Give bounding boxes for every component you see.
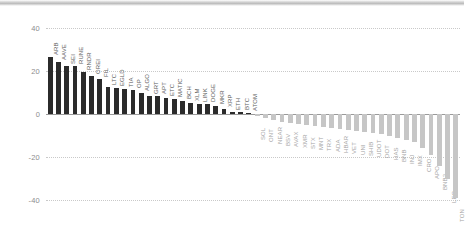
bar-label-udot: UDOT	[376, 140, 382, 157]
y-tick-label--40: -40	[4, 196, 40, 205]
bar-etc[interactable]	[164, 98, 169, 114]
bar-label-dot: DOT	[384, 145, 390, 158]
bar-label-link: LINK	[202, 88, 208, 102]
bar-rndr[interactable]	[81, 72, 86, 114]
bar-label-apo: APO	[434, 166, 440, 179]
bar-uni[interactable]	[354, 114, 359, 131]
bar-label-matic: MATIC	[177, 78, 183, 97]
bar-btc[interactable]	[238, 112, 243, 114]
bar-sol[interactable]	[255, 114, 260, 116]
bar-label-egld: EGLD	[119, 69, 125, 86]
bar-has[interactable]	[387, 114, 392, 136]
bar-label-bnb: BNB	[401, 149, 407, 162]
y-tick-label-20: 20	[4, 67, 40, 76]
bar-arb[interactable]	[48, 57, 53, 114]
bar-label-grt: GRT	[153, 81, 159, 94]
bar-cro[interactable]	[420, 114, 425, 148]
bar-label-rndr: RNDR	[86, 52, 92, 70]
bar-label-mnt: MNT	[318, 137, 324, 150]
bar-apt[interactable]	[155, 96, 160, 114]
bar-udot[interactable]	[371, 114, 376, 133]
bar-label-eth: ETH	[235, 98, 241, 110]
bar-rune[interactable]	[73, 66, 78, 114]
bar-label-cro: CRO	[426, 159, 432, 173]
bar-vet[interactable]	[346, 114, 351, 130]
bar-label-ada: ADA	[335, 139, 341, 152]
bar-doge[interactable]	[205, 104, 210, 114]
bar-fil[interactable]	[97, 79, 102, 114]
bar-label-ton: TON	[459, 209, 465, 222]
bar-ada[interactable]	[329, 114, 334, 128]
bar-label-vet: VET	[351, 142, 357, 154]
bar-xlm[interactable]	[188, 103, 193, 114]
bar-label-rune: RUNE	[78, 47, 84, 64]
y-tick-label-0: 0	[4, 110, 40, 119]
bar-mkr[interactable]	[213, 106, 218, 114]
bar-label-ont: ONT	[268, 129, 274, 142]
bar-label-ltc: LTC	[111, 74, 117, 85]
bar-atom[interactable]	[246, 113, 251, 114]
bar-bch[interactable]	[180, 101, 185, 114]
bar-label-inj: INJ	[409, 154, 415, 163]
bar-egld[interactable]	[114, 88, 119, 114]
bar-label-avax: AVAX	[293, 131, 299, 147]
bar-label-xlm: XLM	[194, 89, 200, 102]
bar-bsv[interactable]	[280, 114, 285, 122]
bar-label-uni: UNI	[360, 145, 366, 156]
bar-label-tia: TIA	[128, 78, 134, 88]
bar-imx[interactable]	[412, 114, 417, 142]
bar-label-stx: STX	[310, 137, 316, 149]
bar-label-xmr: XMR	[302, 134, 308, 148]
bar-mnt[interactable]	[313, 114, 318, 126]
bar-orei[interactable]	[89, 76, 94, 114]
bar-label-bsv: BSV	[285, 133, 291, 145]
bar-label-xrp: XRP	[227, 94, 233, 107]
bar-label-algo: ALGO	[144, 73, 150, 90]
bar-dot[interactable]	[379, 114, 384, 134]
bar-xrp[interactable]	[222, 109, 227, 114]
bar-label-hbar: HBAR	[343, 136, 349, 153]
bar-hbar[interactable]	[338, 114, 343, 129]
bar-label-trx: TRX	[326, 139, 332, 151]
bar-tia[interactable]	[122, 89, 127, 114]
bar-apo[interactable]	[429, 114, 434, 155]
bar-label-near: NEAR	[277, 127, 283, 144]
bar-algo[interactable]	[139, 93, 144, 115]
bar-matic[interactable]	[172, 99, 177, 114]
bar-near[interactable]	[271, 114, 276, 120]
bar-bnb2[interactable]	[437, 114, 442, 166]
bar-label-atom: ATOM	[252, 94, 258, 111]
bar-sei[interactable]	[64, 66, 69, 114]
bar-bnb[interactable]	[395, 114, 400, 138]
bar-ltc[interactable]	[106, 87, 111, 114]
bar-ont[interactable]	[263, 114, 268, 118]
bar-avax[interactable]	[288, 114, 293, 123]
bar-op[interactable]	[131, 90, 136, 114]
bar-aave[interactable]	[56, 62, 61, 114]
bar-link[interactable]	[197, 104, 202, 114]
bar-inj[interactable]	[404, 114, 409, 140]
bar-trx[interactable]	[321, 114, 326, 127]
y-tick-label--20: -20	[4, 153, 40, 162]
bar-ton[interactable]	[453, 114, 458, 198]
bar-series: ARBAAVESEIRUNERNDROREIFILLTCEGLDTIAOPALG…	[46, 6, 460, 235]
bar-label-op: OP	[136, 79, 142, 88]
bar-label-arb: ARB	[53, 42, 59, 55]
bar-shib[interactable]	[362, 114, 367, 132]
bar-label-etc: ETC	[169, 84, 175, 96]
plot-area: ARBAAVESEIRUNERNDROREIFILLTCEGLDTIAOPALG…	[46, 6, 460, 235]
bar-label-mkr: MKR	[219, 91, 225, 105]
bar-label-imx: IMX	[417, 155, 423, 166]
bar-label-fil: FIL	[103, 68, 109, 77]
bar-label-bch: BCH	[186, 86, 192, 99]
bar-label-apt: APT	[161, 82, 167, 94]
bar-leo[interactable]	[445, 114, 450, 179]
bar-label-doge: DOGE	[210, 84, 216, 102]
y-tick-label-40: 40	[4, 24, 40, 33]
bar-label-aave: AAVE	[61, 44, 67, 60]
bar-label-sol: SOL	[260, 128, 266, 140]
bar-eth[interactable]	[230, 112, 235, 114]
bar-xmr[interactable]	[296, 114, 301, 124]
bar-grt[interactable]	[147, 96, 152, 114]
bar-stx[interactable]	[304, 114, 309, 125]
